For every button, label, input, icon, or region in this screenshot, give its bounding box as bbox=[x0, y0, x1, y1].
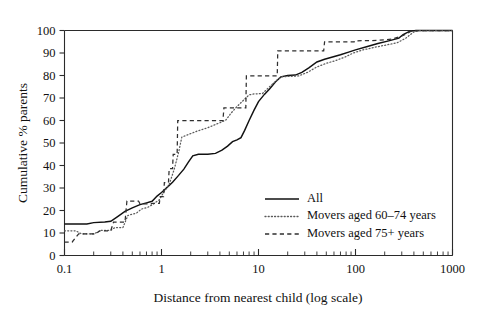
y-tick-label: 40 bbox=[43, 159, 56, 173]
cumulative-distribution-chart: 0102030405060708090100 0.11101001000 All… bbox=[0, 0, 489, 314]
y-tick-label: 10 bbox=[43, 226, 56, 240]
y-tick-label: 30 bbox=[43, 181, 56, 195]
x-tick-label: 1 bbox=[158, 262, 164, 276]
x-tick-label: 1000 bbox=[440, 262, 465, 276]
y-axis-title: Cumulative % parents bbox=[15, 83, 30, 203]
x-tick-label: 100 bbox=[346, 262, 365, 276]
y-tick-label: 60 bbox=[43, 114, 56, 128]
x-axis-ticks bbox=[65, 249, 453, 256]
x-axis-tick-labels: 0.11101001000 bbox=[57, 262, 465, 276]
y-tick-label: 0 bbox=[49, 249, 55, 263]
y-tick-label: 90 bbox=[43, 46, 56, 60]
legend-label: Movers aged 60–74 years bbox=[307, 208, 436, 222]
series-line-dotted bbox=[65, 31, 453, 234]
legend-label: Movers aged 75+ years bbox=[307, 226, 424, 240]
y-tick-label: 50 bbox=[43, 136, 56, 150]
y-tick-label: 70 bbox=[43, 91, 56, 105]
chart-figure: 0102030405060708090100 0.11101001000 All… bbox=[0, 0, 489, 314]
x-tick-label: 0.1 bbox=[57, 262, 73, 276]
y-axis-ticks bbox=[60, 31, 65, 256]
series-line-solid bbox=[65, 31, 453, 225]
y-tick-label: 20 bbox=[43, 204, 56, 218]
chart-legend: AllMovers aged 60–74 yearsMovers aged 75… bbox=[265, 191, 436, 240]
x-axis-title: Distance from nearest child (log scale) bbox=[154, 290, 363, 305]
y-tick-label: 100 bbox=[37, 24, 56, 38]
y-axis-tick-labels: 0102030405060708090100 bbox=[37, 24, 56, 263]
legend-label: All bbox=[307, 191, 324, 205]
y-tick-label: 80 bbox=[43, 69, 56, 83]
x-tick-label: 10 bbox=[252, 262, 265, 276]
